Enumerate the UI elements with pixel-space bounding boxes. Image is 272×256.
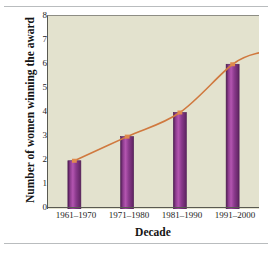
- chart-figure: Number of women winning the award 8 7 6 …: [0, 0, 272, 256]
- data-point-marker: [177, 111, 182, 115]
- y-axis-tick-labels: 8 7 6 5 4 3 2 1 0: [33, 0, 47, 256]
- y-tick-label-1: 1: [35, 179, 47, 188]
- data-point-marker: [125, 135, 130, 139]
- x-tick-label-3: 1991–2000: [206, 210, 264, 220]
- y-tick-label-3: 3: [35, 131, 47, 140]
- x-tick-label-0: 1961–1970: [47, 210, 105, 220]
- y-tick-label-2: 2: [35, 155, 47, 164]
- data-point-marker: [72, 159, 77, 163]
- y-tick-label-7: 7: [35, 35, 47, 44]
- y-tick-label-0: 0: [35, 203, 47, 212]
- y-tick-label-4: 4: [35, 107, 47, 116]
- x-axis-line: [47, 207, 259, 208]
- y-tick-label-5: 5: [35, 83, 47, 92]
- x-axis-title: Decade: [47, 226, 259, 238]
- bar: [226, 64, 239, 209]
- bar: [121, 137, 134, 209]
- plot-area: [47, 15, 259, 209]
- y-tick-label-8: 8: [35, 11, 47, 20]
- bar: [173, 113, 186, 210]
- bar: [68, 161, 81, 209]
- bars-group: [68, 64, 239, 209]
- x-tick-label-2: 1981–1990: [153, 210, 211, 220]
- y-tick-label-6: 6: [35, 59, 47, 68]
- data-point-marker: [230, 62, 235, 66]
- x-tick-label-1: 1971–1980: [100, 210, 158, 220]
- plot-svg: [48, 16, 259, 209]
